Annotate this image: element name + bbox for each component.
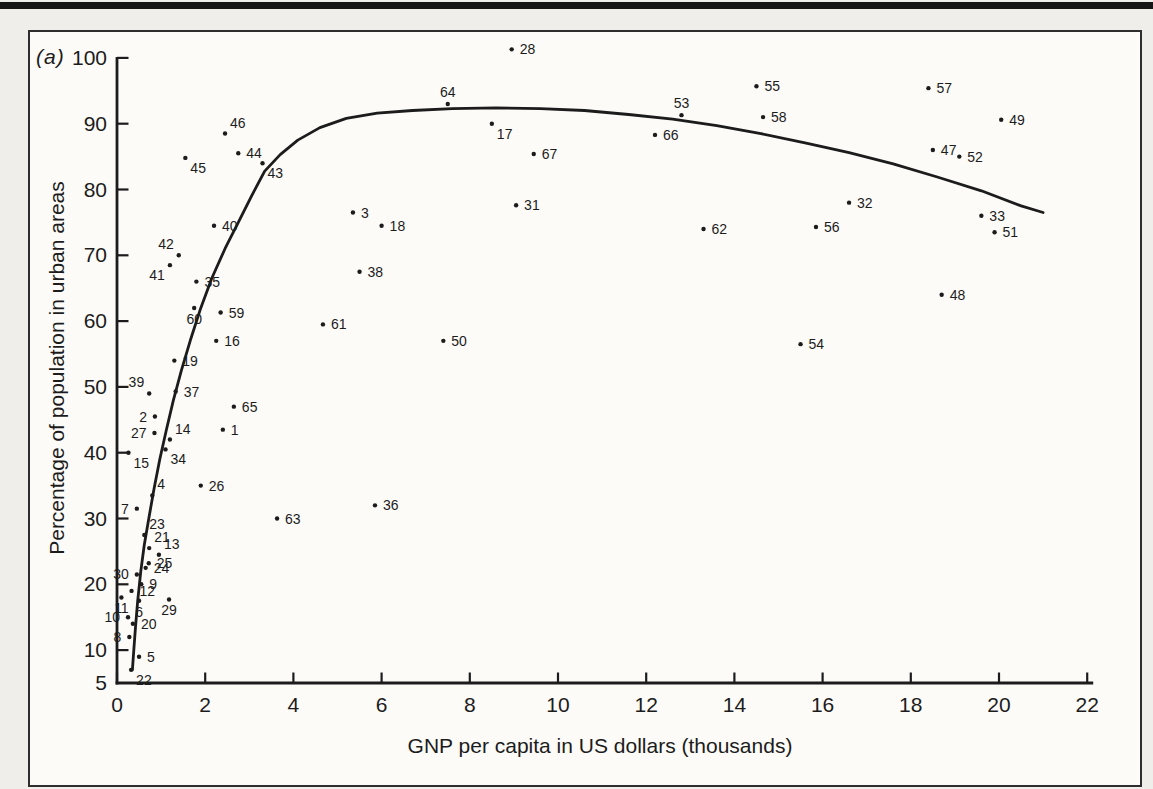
data-point-label: 38 xyxy=(368,264,384,280)
data-point-label: 50 xyxy=(451,333,467,349)
data-point-label: 31 xyxy=(524,197,540,213)
data-point-label: 40 xyxy=(222,218,238,234)
data-point xyxy=(126,451,130,455)
scanned-book-page: 1009080706050403020105024681012141618202… xyxy=(0,0,1153,789)
data-point xyxy=(260,161,264,165)
data-point-label: 12 xyxy=(140,583,156,599)
data-point xyxy=(168,263,172,267)
data-point xyxy=(979,214,983,218)
data-point xyxy=(194,279,198,283)
y-tick-label: 70 xyxy=(84,243,107,266)
y-tick-label: 50 xyxy=(84,375,107,398)
data-point xyxy=(761,115,765,119)
fitted-curve xyxy=(132,108,1043,670)
data-point xyxy=(379,223,383,227)
data-point-label: 62 xyxy=(712,221,728,237)
data-point xyxy=(221,427,225,431)
data-point-label: 54 xyxy=(809,336,825,352)
data-point xyxy=(131,622,135,626)
data-point xyxy=(446,102,450,106)
data-point-label: 48 xyxy=(950,287,966,303)
data-point xyxy=(183,156,187,160)
data-point-label: 60 xyxy=(186,311,202,327)
data-point xyxy=(137,654,141,658)
x-tick-label: 8 xyxy=(464,693,476,716)
data-point-label: 30 xyxy=(113,566,129,582)
data-point xyxy=(992,230,996,234)
data-point xyxy=(357,270,361,274)
data-point-label: 23 xyxy=(149,516,165,532)
data-point xyxy=(135,506,139,510)
data-point xyxy=(957,154,961,158)
x-tick-label: 6 xyxy=(376,693,388,716)
scatter-chart: 1009080706050403020105024681012141618202… xyxy=(0,0,1153,789)
data-point xyxy=(814,225,818,229)
data-point-label: 33 xyxy=(989,208,1005,224)
y-tick-label: 10 xyxy=(84,638,107,661)
x-tick-label: 10 xyxy=(546,693,569,716)
data-point-label: 26 xyxy=(209,478,225,494)
data-point-label: 46 xyxy=(230,115,246,131)
data-point xyxy=(679,113,683,117)
data-point xyxy=(223,131,227,135)
data-point-label: 25 xyxy=(157,555,173,571)
data-point-label: 67 xyxy=(542,146,558,162)
y-tick-label: 30 xyxy=(84,507,107,530)
data-point-label: 49 xyxy=(1009,112,1025,128)
data-point xyxy=(441,339,445,343)
data-point xyxy=(232,404,236,408)
data-point xyxy=(172,358,176,362)
data-point xyxy=(847,200,851,204)
data-point xyxy=(321,322,325,326)
y-axis-end-label: 5 xyxy=(95,671,107,694)
data-point-label: 44 xyxy=(246,145,262,161)
data-point xyxy=(926,86,930,90)
data-point xyxy=(137,599,141,603)
data-point-label: 41 xyxy=(149,267,165,283)
data-point-label: 17 xyxy=(497,126,513,142)
data-point-label: 20 xyxy=(141,616,157,632)
data-point-label: 11 xyxy=(114,600,129,616)
panel-label: (a) xyxy=(36,45,65,69)
data-point-label: 39 xyxy=(129,374,145,390)
data-point xyxy=(999,118,1003,122)
data-point xyxy=(119,595,123,599)
data-point-label: 8 xyxy=(114,629,122,645)
x-tick-label: 18 xyxy=(899,693,922,716)
data-point xyxy=(167,597,171,601)
data-point xyxy=(192,306,196,310)
data-point-label: 15 xyxy=(133,455,149,471)
data-point xyxy=(163,447,167,451)
data-point xyxy=(177,253,181,257)
x-tick-label: 4 xyxy=(288,693,300,716)
data-point xyxy=(798,342,802,346)
data-point-label: 27 xyxy=(131,425,147,441)
x-tick-label: 14 xyxy=(723,693,747,716)
data-point xyxy=(514,203,518,207)
data-point xyxy=(754,84,758,88)
data-point-label: 64 xyxy=(440,84,456,100)
x-axis-title: GNP per capita in US dollars (thousands) xyxy=(408,734,793,758)
data-point xyxy=(147,546,151,550)
data-point-label: 47 xyxy=(941,142,957,158)
data-point xyxy=(939,293,943,297)
data-point xyxy=(701,227,705,231)
y-tick-label: 90 xyxy=(84,112,107,135)
data-point-label: 42 xyxy=(158,236,174,252)
data-point xyxy=(142,533,146,537)
data-point-label: 53 xyxy=(674,95,690,111)
data-point-label: 32 xyxy=(857,195,873,211)
data-point-label: 16 xyxy=(224,333,240,349)
data-point-label: 43 xyxy=(268,165,284,181)
data-point-label: 37 xyxy=(184,384,200,400)
data-point xyxy=(351,210,355,214)
data-point xyxy=(214,339,218,343)
data-point-label: 2 xyxy=(139,409,147,425)
data-point-label: 7 xyxy=(121,501,129,517)
data-point xyxy=(532,152,536,156)
data-point xyxy=(150,493,154,497)
data-point-label: 66 xyxy=(663,127,679,143)
data-point-label: 1 xyxy=(231,422,239,438)
data-point xyxy=(373,503,377,507)
x-tick-label: 2 xyxy=(199,693,211,716)
